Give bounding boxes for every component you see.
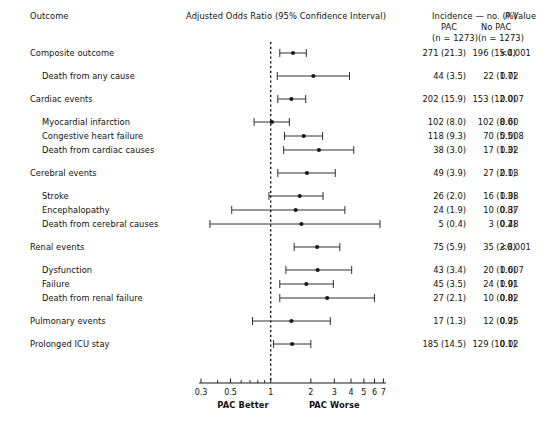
x-axis-tick-label: 2 <box>299 388 323 397</box>
table-row: Death from cardiac causes38 (3.0)17 (1.3… <box>0 143 548 157</box>
table-row: Failure45 (3.5)24 (1.9)0.01 <box>0 277 548 291</box>
p-value: 0.02 <box>500 291 544 305</box>
outcome-label: Failure <box>42 277 70 291</box>
incidence-pac: 118 (9.3) <box>412 129 466 143</box>
p-value: 0.03 <box>500 166 544 180</box>
table-row: Death from any cause44 (3.5)22 (1.7)0.02 <box>0 69 548 83</box>
column-subheader-no-pac: No PAC <box>481 22 511 32</box>
table-row: Prolonged ICU stay185 (14.5)129 (10.1)0.… <box>0 337 548 351</box>
axis-caption-pac-worse: PAC Worse <box>274 400 394 410</box>
incidence-pac: 44 (3.5) <box>412 69 466 83</box>
incidence-pac: 38 (3.0) <box>412 143 466 157</box>
outcome-label: Composite outcome <box>30 46 114 60</box>
p-value: 0.48 <box>500 217 544 231</box>
x-axis-tick-label: 7 <box>371 388 395 397</box>
p-value: 0.01 <box>500 277 544 291</box>
table-row: Myocardial infarction102 (8.0)102 (8.0)0… <box>0 115 548 129</box>
table-row: Composite outcome271 (21.3)196 (15.4)<0.… <box>0 46 548 60</box>
incidence-pac: 5 (0.4) <box>412 217 466 231</box>
outcome-label: Myocardial infarction <box>42 115 130 129</box>
column-subheader-pac: PAC <box>441 22 457 32</box>
p-value: 0.25 <box>500 314 544 328</box>
incidence-pac: 271 (21.3) <box>412 46 466 60</box>
p-value: 0.02 <box>500 143 544 157</box>
incidence-pac: 102 (8.0) <box>412 115 466 129</box>
x-axis-tick-label: 0.3 <box>189 388 213 397</box>
table-row: Renal events75 (5.9)35 (2.8)<0.001 <box>0 240 548 254</box>
p-value: 0.37 <box>500 203 544 217</box>
outcome-label: Encephalopathy <box>42 203 110 217</box>
outcome-label: Cerebral events <box>30 166 97 180</box>
incidence-pac: 26 (2.0) <box>412 189 466 203</box>
p-value: <0.001 <box>500 240 544 254</box>
p-value: 0.08 <box>500 189 544 203</box>
outcome-label: Death from cardiac causes <box>42 143 154 157</box>
column-subheader-no-pac-n: (n = 1273) <box>478 33 524 43</box>
p-value: 0.02 <box>500 69 544 83</box>
incidence-pac: 24 (1.9) <box>412 203 466 217</box>
column-subheader-pac-n: (n = 1273) <box>432 33 478 43</box>
incidence-pac: 185 (14.5) <box>412 337 466 351</box>
incidence-pac: 43 (3.4) <box>412 263 466 277</box>
table-row: Death from cerebral causes5 (0.4)3 (0.2)… <box>0 217 548 231</box>
outcome-label: Cardiac events <box>30 92 93 106</box>
table-row: Encephalopathy24 (1.9)10 (0.8)0.37 <box>0 203 548 217</box>
column-header-outcome: Outcome <box>30 11 69 21</box>
table-row: Congestive heart failure118 (9.3)70 (5.5… <box>0 129 548 143</box>
outcome-label: Renal events <box>30 240 84 254</box>
x-axis-tick-label: 1 <box>259 388 283 397</box>
incidence-pac: 75 (5.9) <box>412 240 466 254</box>
x-axis-tick-label: 0.5 <box>219 388 243 397</box>
outcome-label: Death from cerebral causes <box>42 217 158 231</box>
p-value: 0.008 <box>500 129 544 143</box>
table-row: Death from renal failure27 (2.1)10 (0.8)… <box>0 291 548 305</box>
table-row: Cardiac events202 (15.9)153 (12.0)0.007 <box>0 92 548 106</box>
outcome-label: Congestive heart failure <box>42 129 143 143</box>
table-row: Cerebral events49 (3.9)27 (2.1)0.03 <box>0 166 548 180</box>
incidence-pac: 45 (3.5) <box>412 277 466 291</box>
forest-plot-figure: Outcome Adjusted Odds Ratio (95% Confide… <box>0 0 548 423</box>
incidence-pac: 49 (3.9) <box>412 166 466 180</box>
column-header-odds-ratio: Adjusted Odds Ratio (95% Confidence Inte… <box>186 11 386 21</box>
outcome-label: Death from renal failure <box>42 291 143 305</box>
incidence-pac: 17 (1.3) <box>412 314 466 328</box>
column-header-p-value: P Value <box>505 11 536 21</box>
table-row: Pulmonary events17 (1.3)12 (0.9)0.25 <box>0 314 548 328</box>
p-value: 0.02 <box>500 337 544 351</box>
table-row: Dysfunction43 (3.4)20 (1.6)0.007 <box>0 263 548 277</box>
incidence-pac: 202 (15.9) <box>412 92 466 106</box>
outcome-label: Prolonged ICU stay <box>30 337 110 351</box>
incidence-pac: 27 (2.1) <box>412 291 466 305</box>
p-value: 0.60 <box>500 115 544 129</box>
outcome-label: Dysfunction <box>42 263 92 277</box>
p-value: <0.001 <box>500 46 544 60</box>
table-row: Stroke26 (2.0)16 (1.3)0.08 <box>0 189 548 203</box>
p-rest: Value <box>510 11 536 21</box>
p-value: 0.007 <box>500 92 544 106</box>
outcome-label: Stroke <box>42 189 69 203</box>
p-value: 0.007 <box>500 263 544 277</box>
outcome-label: Death from any cause <box>42 69 135 83</box>
outcome-label: Pulmonary events <box>30 314 106 328</box>
